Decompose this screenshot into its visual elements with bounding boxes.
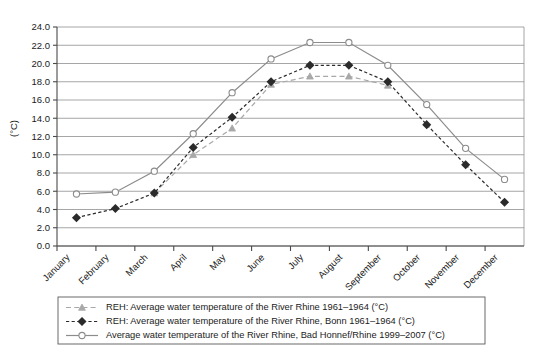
x-tick-label: December (461, 252, 500, 291)
data-point-marker (307, 62, 314, 69)
x-tick-label: January (40, 251, 72, 283)
data-point-marker (346, 39, 352, 45)
series-2 (73, 62, 508, 221)
legend-item-label: REH: Average water temperature of the Ri… (106, 302, 388, 312)
legend-item[interactable]: REH: Average water temperature of the Ri… (66, 302, 388, 312)
x-tick-label: May (207, 251, 228, 272)
y-tick-label: 20.0 (32, 58, 51, 69)
data-point-marker (79, 332, 85, 338)
y-tick-label: 4.0 (37, 204, 50, 215)
x-tick-label: August (316, 251, 345, 280)
legend-item[interactable]: Average water temperature of the River R… (66, 330, 445, 340)
x-tick-label: April (167, 252, 188, 273)
data-point-marker (307, 39, 313, 45)
x-axis: JanuaryFebruaryMarchAprilMayJuneJulyAugu… (40, 246, 524, 292)
data-point-marker (345, 62, 352, 69)
legend-item-label: REH: Average water temperature of the Ri… (106, 316, 415, 326)
chart-canvas: 0.02.04.06.08.010.012.014.016.018.020.02… (0, 0, 536, 357)
data-point-marker (268, 56, 274, 62)
data-point-marker (190, 144, 197, 151)
data-point-marker (229, 90, 235, 96)
y-tick-label: 16.0 (32, 94, 51, 105)
y-tick-label: 14.0 (32, 113, 51, 124)
y-tick-label: 10.0 (32, 149, 51, 160)
data-point-marker (73, 191, 79, 197)
chart-legend: REH: Average water temperature of the Ri… (58, 297, 485, 344)
data-point-marker (307, 73, 314, 79)
y-tick-label: 22.0 (32, 40, 51, 51)
grid-layer (57, 27, 524, 246)
data-point-marker (501, 176, 507, 182)
data-point-marker (268, 78, 275, 85)
data-point-marker (424, 101, 430, 107)
y-tick-label: 18.0 (32, 76, 51, 87)
data-point-marker (463, 145, 469, 151)
x-tick-label: September (343, 252, 384, 293)
temperature-line-chart: 0.02.04.06.08.010.012.014.016.018.020.02… (0, 0, 536, 357)
y-tick-label: 2.0 (37, 222, 50, 233)
legend-item-label: Average water temperature of the River R… (106, 330, 445, 340)
series-line (76, 65, 504, 217)
data-point-marker (385, 62, 391, 68)
data-point-marker (345, 73, 352, 79)
data-point-marker (73, 214, 80, 221)
y-tick-label: 8.0 (37, 167, 50, 178)
data-point-marker (501, 199, 508, 206)
x-tick-label: February (76, 251, 111, 286)
data-point-marker (151, 168, 157, 174)
y-tick-label: 12.0 (32, 131, 51, 142)
series-layer (73, 39, 508, 221)
data-point-marker (79, 318, 86, 325)
y-tick-label: 24.0 (32, 21, 51, 32)
data-point-marker (112, 189, 118, 195)
data-point-marker (229, 125, 236, 131)
data-point-marker (190, 131, 196, 137)
series-line (154, 76, 387, 193)
legend-item[interactable]: REH: Average water temperature of the Ri… (66, 316, 415, 326)
data-point-marker (112, 205, 119, 212)
y-axis-title-label: (°C) (8, 120, 19, 137)
x-tick-label: October (390, 252, 422, 284)
y-tick-label: 0.0 (37, 240, 50, 251)
y-tick-label: 6.0 (37, 186, 50, 197)
x-tick-label: July (286, 251, 306, 271)
y-axis: 0.02.04.06.08.010.012.014.016.018.020.02… (32, 21, 58, 251)
series-1 (151, 73, 391, 196)
x-tick-label: June (244, 252, 266, 274)
x-tick-label: March (123, 252, 149, 278)
y-axis-title: (°C) (8, 120, 19, 137)
x-tick-label: November (422, 252, 461, 291)
